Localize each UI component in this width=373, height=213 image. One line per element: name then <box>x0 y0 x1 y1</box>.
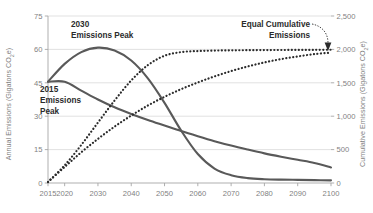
x-tick-label: 2060 <box>189 189 206 198</box>
annotation-arrow-icon <box>312 24 328 43</box>
annotation-2030-line1: 2030 <box>71 20 90 29</box>
series-line-0 <box>48 81 331 167</box>
y-axis-left-title: Annual Emissions (Gigatons CO2e) <box>4 48 15 160</box>
y-left-tick-label: 60 <box>34 45 42 54</box>
y-right-tick-label: 1,000 <box>337 112 356 121</box>
chart-canvas: 2015202020302040205020602070208020902100… <box>0 0 373 213</box>
series-line-2 <box>48 53 331 182</box>
annotation-2015-line1: 2015 <box>40 85 59 94</box>
y-right-tick-label: 2,500 <box>337 12 356 21</box>
y-axis-right-ticks-group: 05001,0001,5002,0002,500 <box>331 12 356 188</box>
data-series-group <box>48 48 331 182</box>
x-tick-label: 2040 <box>123 189 140 198</box>
series-line-1 <box>48 48 331 181</box>
annotation-equal-line2: Emissions <box>269 31 310 40</box>
annotation-2030-line2: Emissions Peak <box>71 31 134 40</box>
x-tick-label: 2090 <box>289 189 306 198</box>
x-tick-label: 2100 <box>323 189 340 198</box>
annotation-2015-line2: Emissions <box>40 96 81 105</box>
x-tick-label: 2050 <box>156 189 173 198</box>
annotation-equal-cumulative-emissions: Equal Cumulative Emissions <box>241 20 331 51</box>
y-right-tick-label: 0 <box>337 179 341 188</box>
annotation-2030-emissions-peak: 2030 Emissions Peak <box>71 20 134 40</box>
x-tick-label: 2070 <box>223 189 240 198</box>
annotation-2015-emissions-peak: 2015 Emissions Peak <box>40 85 81 116</box>
annotation-2015-line3: Peak <box>40 107 60 116</box>
x-tick-label: 2030 <box>89 189 106 198</box>
y-axis-right-title: Cumulative Emissions (Gigatons CO2e) <box>358 41 369 167</box>
y-right-tick-label: 500 <box>337 145 350 154</box>
y-left-tick-label: 75 <box>34 12 42 21</box>
emissions-chart: 2015202020302040205020602070208020902100… <box>0 0 373 213</box>
x-tick-label: 2020 <box>56 189 73 198</box>
y-left-tick-label: 15 <box>34 145 42 154</box>
y-right-tick-label: 2,000 <box>337 45 356 54</box>
x-tick-label: 2015 <box>40 189 57 198</box>
annotation-equal-line1: Equal Cumulative <box>241 20 310 29</box>
x-tick-label: 2080 <box>256 189 273 198</box>
x-axis-ticks-group: 2015202020302040205020602070208020902100 <box>40 183 340 198</box>
y-right-tick-label: 1,500 <box>337 79 356 88</box>
y-left-tick-label: 0 <box>38 179 42 188</box>
